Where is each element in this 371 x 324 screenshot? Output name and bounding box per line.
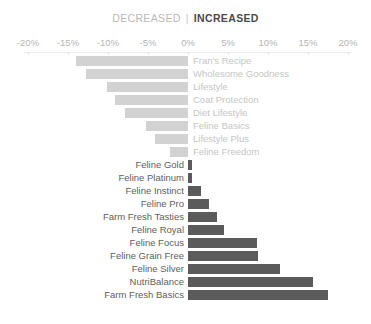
x-axis-tick-label: 0% <box>181 37 195 48</box>
bar-increased[interactable] <box>188 199 209 209</box>
x-axis-tick-labels: -20%-15%-10%-5%0%5%10%15%20% <box>0 37 371 51</box>
bar-category-label: Feline Grain Free <box>110 250 184 262</box>
x-axis-tick-label: 15% <box>298 37 317 48</box>
bar-category-label: Feline Instinct <box>125 185 184 197</box>
bar-category-label: Feline Silver <box>132 263 184 275</box>
bar-category-label: Fran's Recipe <box>193 55 251 67</box>
x-axis-tick-label: 5% <box>221 37 235 48</box>
chart-bar-row[interactable]: Wholesome Goodness <box>0 68 371 81</box>
bar-category-label: Feline Royal <box>131 224 184 236</box>
chart-bar-row[interactable]: Diet Lifestyle <box>0 107 371 120</box>
chart-bar-row[interactable]: Feline Instinct <box>0 185 371 198</box>
x-axis-tick-label: 10% <box>258 37 277 48</box>
bar-increased[interactable] <box>188 186 201 196</box>
x-axis-tick-label: -15% <box>57 37 79 48</box>
chart-bar-row[interactable]: Feline Grain Free <box>0 250 371 263</box>
bar-category-label: Feline Platinum <box>119 172 184 184</box>
bar-decreased[interactable] <box>155 134 188 144</box>
chart-bar-row[interactable]: Farm Fresh Tasties <box>0 211 371 224</box>
bar-increased[interactable] <box>188 212 217 222</box>
bar-category-label: Feline Pro <box>141 198 184 210</box>
bar-category-label: Coat Protection <box>193 94 258 106</box>
chart-bar-row[interactable]: Feline Basics <box>0 120 371 133</box>
chart-bar-row[interactable]: Farm Fresh Basics <box>0 289 371 302</box>
bar-decreased[interactable] <box>170 147 188 157</box>
bar-category-label: Feline Focus <box>130 237 184 249</box>
bar-increased[interactable] <box>188 173 192 183</box>
chart-bar-row[interactable]: Feline Royal <box>0 224 371 237</box>
chart-legend: DECREASED|INCREASED <box>0 12 371 24</box>
chart-bar-row[interactable]: Feline Freedom <box>0 146 371 159</box>
x-axis-tick-label: -10% <box>97 37 119 48</box>
bar-decreased[interactable] <box>115 95 188 105</box>
bar-increased[interactable] <box>188 160 192 170</box>
bar-increased[interactable] <box>188 290 328 300</box>
chart-bar-row[interactable]: Fran's Recipe <box>0 55 371 68</box>
bar-increased[interactable] <box>188 264 280 274</box>
bar-category-label: Feline Freedom <box>193 146 260 158</box>
bar-category-label: NutriBalance <box>130 276 184 288</box>
x-axis-tick-label: -20% <box>17 37 39 48</box>
bar-decreased[interactable] <box>107 82 188 92</box>
bar-decreased[interactable] <box>125 108 188 118</box>
chart-bar-row[interactable]: Feline Gold <box>0 159 371 172</box>
chart-plot-area: Fran's RecipeWholesome GoodnessLifestyle… <box>0 55 371 315</box>
x-axis-tick-label: -5% <box>140 37 157 48</box>
bar-increased[interactable] <box>188 277 313 287</box>
bar-increased[interactable] <box>188 251 258 261</box>
chart-bar-row[interactable]: Lifestyle <box>0 81 371 94</box>
chart-bar-row[interactable]: Feline Pro <box>0 198 371 211</box>
diverging-bar-chart: DECREASED|INCREASED -20%-15%-10%-5%0%5%1… <box>0 0 371 324</box>
chart-bar-row[interactable]: Lifestyle Plus <box>0 133 371 146</box>
bar-category-label: Feline Gold <box>135 159 184 171</box>
chart-bar-row[interactable]: NutriBalance <box>0 276 371 289</box>
x-axis-tick-label: 20% <box>338 37 357 48</box>
bar-decreased[interactable] <box>76 56 188 66</box>
legend-increased-label: INCREASED <box>194 12 259 24</box>
bar-increased[interactable] <box>188 238 257 248</box>
chart-bar-row[interactable]: Feline Silver <box>0 263 371 276</box>
bar-category-label: Lifestyle <box>193 81 228 93</box>
bar-decreased[interactable] <box>86 69 188 79</box>
bar-increased[interactable] <box>188 225 224 235</box>
chart-bar-row[interactable]: Feline Platinum <box>0 172 371 185</box>
chart-bar-row[interactable]: Coat Protection <box>0 94 371 107</box>
bar-category-label: Feline Basics <box>193 120 250 132</box>
bar-decreased[interactable] <box>146 121 188 131</box>
bar-category-label: Farm Fresh Tasties <box>103 211 184 223</box>
bar-category-label: Farm Fresh Basics <box>104 289 184 301</box>
bar-category-label: Diet Lifestyle <box>193 107 247 119</box>
bar-category-label: Lifestyle Plus <box>193 133 249 145</box>
chart-bar-row[interactable]: Feline Focus <box>0 237 371 250</box>
bar-category-label: Wholesome Goodness <box>193 68 289 80</box>
legend-decreased-label: DECREASED <box>112 12 181 24</box>
legend-separator: | <box>181 12 194 24</box>
